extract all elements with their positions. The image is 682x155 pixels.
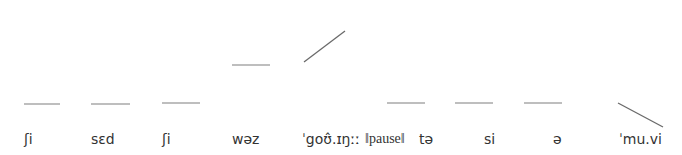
- contour-rising-line: [304, 31, 345, 62]
- syllable-label: ʃi: [162, 129, 171, 149]
- syllable-label: ə: [553, 129, 562, 149]
- contour-falling-line: [618, 103, 663, 127]
- pause-marker: ‖pause‖: [365, 129, 405, 149]
- syllable-label: tə: [419, 129, 433, 149]
- syllable-label: ˈmu.vi: [619, 129, 662, 149]
- syllable-label: wəz: [232, 129, 259, 149]
- syllable-label: ʃi: [24, 129, 33, 149]
- intonation-diagram: ʃisɛdʃiwəzˈgoʊ̂.ɪŋːː‖pause‖təsiəˈmu.vi: [0, 0, 682, 155]
- syllable-label: ˈgoʊ̂.ɪŋːː: [302, 129, 360, 149]
- syllable-label: si: [484, 129, 495, 149]
- syllable-label: sɛd: [91, 129, 115, 149]
